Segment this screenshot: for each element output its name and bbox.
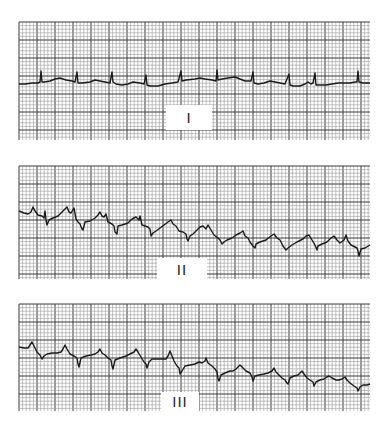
ecg-figure [0, 0, 387, 429]
lead-label-text: I [186, 109, 191, 126]
lead-label-text: II [177, 261, 187, 278]
lead-label-i: I [166, 105, 212, 130]
lead-label-text: III [172, 393, 188, 410]
lead-label-ii: II [157, 258, 207, 280]
lead-label-iii: III [161, 392, 199, 411]
